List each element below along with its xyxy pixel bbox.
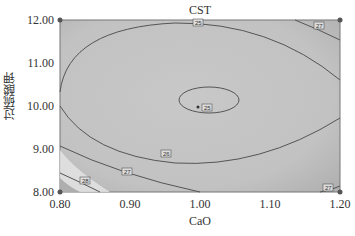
- svg-text:27: 27: [124, 169, 131, 175]
- plot-area: [60, 20, 340, 192]
- x-tick: 1.10: [250, 197, 290, 212]
- svg-text:25: 25: [195, 20, 202, 26]
- x-tick: 1.00: [180, 197, 220, 212]
- x-tick: 1.20: [320, 197, 355, 212]
- y-tick: 9.00: [14, 143, 54, 155]
- svg-text:27: 27: [316, 23, 323, 29]
- y-axis-label: 过硫酸钾: [4, 72, 18, 120]
- svg-text:27: 27: [325, 185, 332, 191]
- x-tick: 0.80: [40, 197, 80, 212]
- svg-text:25: 25: [204, 105, 211, 111]
- y-tick: 10.00: [14, 100, 54, 112]
- svg-text:28: 28: [82, 178, 89, 184]
- x-axis-label: CaO: [60, 214, 340, 229]
- svg-text:26: 26: [163, 151, 170, 157]
- y-tick: 11.00: [14, 57, 54, 69]
- y-tick: 12.00: [14, 14, 54, 26]
- x-tick: 0.90: [110, 197, 150, 212]
